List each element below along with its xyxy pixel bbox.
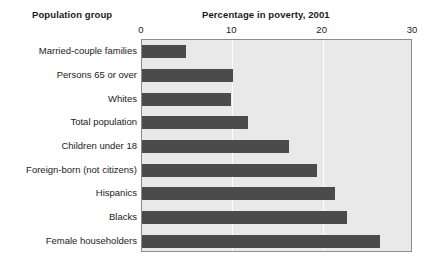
bar-row [142,69,411,82]
x-tick-label-10: 10 [226,24,237,35]
category-label: Whites [108,93,137,104]
bar-row [142,45,411,58]
x-tick-label-20: 20 [316,24,327,35]
plot-area [141,39,412,252]
category-label: Blacks [109,211,137,222]
bar-row [142,116,411,129]
bar [142,45,186,58]
population-group-header: Population group [32,9,112,20]
bar [142,211,347,224]
category-label: Foreign-born (not citizens) [26,164,137,175]
category-label: Children under 18 [61,140,137,151]
x-tick-label-30: 30 [407,24,418,35]
category-label: Persons 65 or over [57,69,137,80]
chart-title: Percentage in poverty, 2001 [202,9,330,20]
category-label: Female householders [46,235,137,246]
x-tick-label-0: 0 [138,24,143,35]
category-labels: Married-couple familiesPersons 65 or ove… [0,39,137,252]
bar [142,116,248,129]
x-axis-tick-labels: 0102030 [0,24,425,38]
category-label: Married-couple families [39,45,137,56]
bars-group [142,40,411,251]
bar-row [142,187,411,200]
category-label: Total population [70,116,137,127]
bar-row [142,164,411,177]
poverty-bar-chart-figure: Population group Percentage in poverty, … [0,0,425,270]
bar [142,69,233,82]
bar [142,235,380,248]
bar-row [142,211,411,224]
bar [142,93,231,106]
bar-row [142,93,411,106]
category-label: Hispanics [96,187,137,198]
bar-row [142,140,411,153]
bar [142,187,335,200]
bar-row [142,235,411,248]
bar [142,140,289,153]
bar [142,164,317,177]
